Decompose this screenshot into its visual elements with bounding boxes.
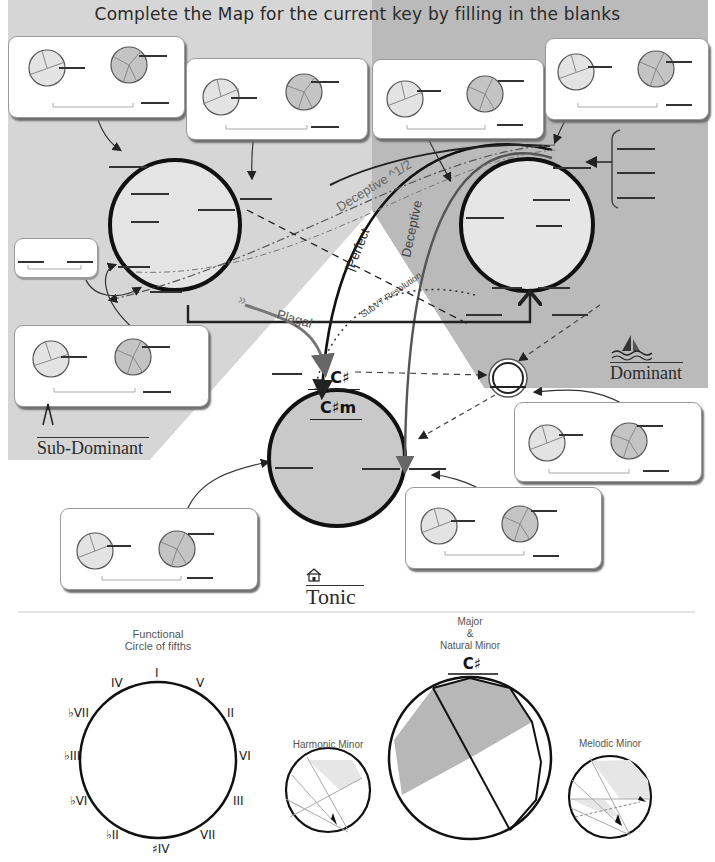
- harmonic-minor-title: Harmonic Minor: [278, 739, 378, 750]
- subdominant-blank[interactable]: [198, 209, 235, 211]
- melodic-minor-title: Melodic Minor: [560, 738, 660, 749]
- sailboat-icon: [610, 333, 652, 365]
- perfect-label: |Perfect: [342, 226, 373, 273]
- chord-blank-left[interactable]: [559, 434, 583, 436]
- chord-blank-left[interactable]: [451, 520, 475, 522]
- chord-blank-left[interactable]: [61, 356, 87, 358]
- chord-blank-right[interactable]: [139, 55, 167, 57]
- chord-name-blank[interactable]: [187, 577, 213, 579]
- dominant-option-blank[interactable]: [617, 197, 655, 199]
- dominant-option-blank[interactable]: [617, 172, 655, 174]
- chord-blank-right[interactable]: [142, 346, 170, 348]
- subdominant-blank[interactable]: [109, 166, 147, 168]
- page-title: Complete the Map for the current key by …: [0, 4, 715, 24]
- functional-circle-title: Functional Circle of fifths: [98, 628, 218, 652]
- chord-card: [14, 325, 209, 407]
- chord-blank-right[interactable]: [67, 261, 93, 263]
- numeral-flat-VI: ♭VI: [70, 794, 87, 808]
- dominant-circle: [461, 159, 593, 291]
- chord-name-blank[interactable]: [311, 126, 339, 128]
- subv7-label: SubV7 Resolution: [358, 270, 423, 320]
- numeral-V: V: [196, 676, 204, 690]
- harmonic-minor-circle: [286, 748, 370, 833]
- functional-circle-of-fifths: [80, 682, 236, 838]
- numeral-VII: VII: [200, 828, 215, 842]
- tonic-blank[interactable]: [275, 467, 313, 469]
- chord-name-blank[interactable]: [666, 104, 692, 106]
- numeral-II: II: [227, 706, 234, 720]
- dominant-blank[interactable]: [533, 199, 570, 201]
- dominant-blank[interactable]: [536, 225, 562, 227]
- chord-card: [186, 58, 368, 140]
- chord-name-blank[interactable]: [141, 102, 169, 104]
- subdominant-blank[interactable]: [118, 266, 150, 268]
- secondary-target-circle: [489, 359, 527, 397]
- chord-card: [8, 36, 185, 118]
- tonic-blank[interactable]: [409, 468, 446, 470]
- chord-blank-left[interactable]: [417, 90, 441, 92]
- chord-name-blank[interactable]: [497, 124, 523, 126]
- chord-name-blank[interactable]: [533, 555, 559, 557]
- secondary-chord-card: [14, 238, 98, 278]
- sub-dominant-label: Sub-Dominant: [37, 438, 143, 459]
- tonic-major-underline: [308, 389, 360, 390]
- plagal-label: Plagal: [275, 306, 314, 330]
- chord-card: [60, 508, 258, 590]
- chord-blank-right[interactable]: [637, 425, 663, 427]
- chord-blank-left[interactable]: [18, 261, 44, 263]
- dominant-blank[interactable]: [492, 287, 522, 289]
- dominant-blank[interactable]: [466, 314, 502, 316]
- major-key-label: C♯: [455, 655, 489, 673]
- tonic-major-key: C♯: [320, 368, 360, 387]
- numeral-I: I: [155, 666, 159, 680]
- chord-blank-left[interactable]: [59, 67, 85, 69]
- chord-blank-right[interactable]: [498, 80, 524, 82]
- dominant-blank[interactable]: [538, 287, 570, 289]
- subdominant-blank[interactable]: [240, 198, 272, 200]
- dominant-blank[interactable]: [553, 167, 591, 169]
- chord-blank-right[interactable]: [531, 510, 557, 512]
- tonic-minor-underline: [310, 419, 362, 420]
- subdominant-blank[interactable]: [150, 291, 182, 293]
- numeral-flat-VII: ♭VII: [68, 706, 89, 720]
- subdominant-blank[interactable]: [131, 221, 159, 223]
- chord-name-blank[interactable]: [143, 391, 171, 393]
- dominant-label: Dominant: [610, 363, 682, 384]
- chord-blank-left[interactable]: [231, 97, 257, 99]
- chord-blank-right[interactable]: [188, 533, 214, 535]
- tonic-label: Tonic: [306, 584, 356, 610]
- melodic-minor-circle: [569, 756, 651, 838]
- chord-card: [405, 487, 602, 569]
- chord-card: [372, 59, 544, 139]
- dominant-blank[interactable]: [466, 217, 504, 219]
- numeral-flat-III: ♭III: [64, 749, 80, 763]
- chord-blank-left[interactable]: [588, 66, 612, 68]
- tuning-fork-icon: [40, 402, 56, 430]
- tonic-blank[interactable]: [272, 373, 302, 375]
- deceptive-label: Deceptive: [398, 199, 425, 259]
- numeral-IV: IV: [111, 676, 123, 690]
- tonic-blank[interactable]: [362, 468, 400, 470]
- chord-name-blank[interactable]: [643, 470, 669, 472]
- subdominant-circle: [110, 160, 240, 290]
- chord-blank-right[interactable]: [311, 81, 339, 83]
- numeral-sharp-IV: ♯IV: [152, 842, 170, 856]
- subdominant-blank[interactable]: [131, 193, 169, 195]
- major-natural-minor-circle: [389, 674, 551, 839]
- dominant-blank[interactable]: [552, 314, 588, 316]
- chord-blank-left[interactable]: [107, 545, 131, 547]
- numeral-VI: VI: [239, 749, 251, 763]
- chord-card: [514, 402, 702, 482]
- chord-card: [545, 38, 709, 120]
- numeral-III: III: [233, 794, 244, 808]
- dominant-option-blank[interactable]: [617, 148, 655, 150]
- numeral-flat-II: ♭II: [106, 828, 119, 842]
- tonic-minor-key: C♯m: [310, 398, 366, 417]
- chord-blank-right[interactable]: [666, 61, 692, 63]
- major-natural-minor-title: Major & Natural Minor: [420, 616, 520, 652]
